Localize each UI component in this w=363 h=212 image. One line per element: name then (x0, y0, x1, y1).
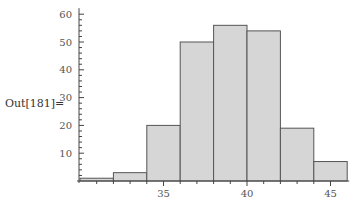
histogram-bar (314, 162, 347, 181)
x-tick-label: 40 (241, 188, 254, 199)
y-tick-label: 40 (59, 64, 72, 75)
y-tick-label: 60 (59, 9, 72, 20)
histogram-bar (280, 128, 313, 181)
histogram-bar (180, 42, 213, 181)
y-tick-label: 10 (59, 148, 72, 159)
x-tick-label: 45 (324, 188, 337, 199)
y-tick-label: 30 (59, 92, 72, 103)
histogram-chart: 102030405060354045 (0, 0, 363, 212)
histogram-bar (214, 25, 247, 181)
y-tick-label: 50 (59, 37, 72, 48)
y-tick-label: 20 (59, 120, 72, 131)
histogram-bar (113, 173, 146, 181)
histogram-bar (247, 31, 280, 181)
x-tick-label: 35 (157, 188, 170, 199)
histogram-bar (147, 125, 180, 181)
histogram-bars (80, 25, 347, 181)
